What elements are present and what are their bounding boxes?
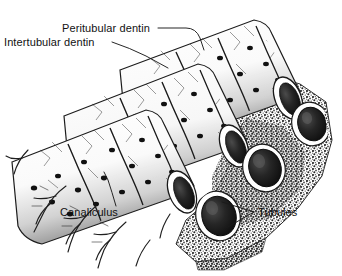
label-tubules: Tubules bbox=[258, 206, 297, 218]
dentin-tubules-figure: Peritubular dentin Intertubular dentin C… bbox=[0, 0, 342, 276]
label-intertubular-dentin: Intertubular dentin bbox=[4, 36, 95, 48]
label-canaliculus: Canaliculus bbox=[60, 206, 118, 218]
label-peritubular-dentin: Peritubular dentin bbox=[62, 22, 150, 34]
